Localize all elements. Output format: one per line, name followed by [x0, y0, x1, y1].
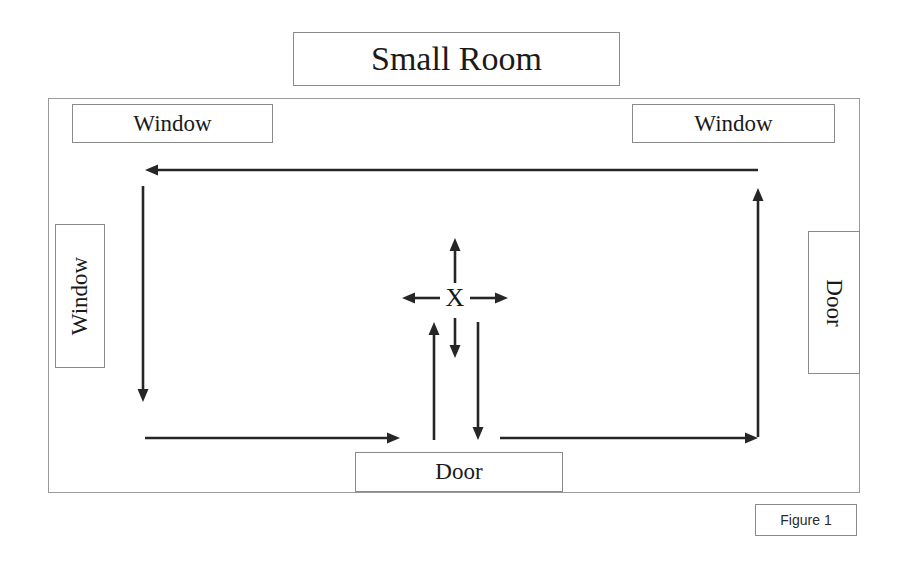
- arrow-head-lower-center-up: [429, 322, 440, 335]
- window-top-right-box: Window: [632, 104, 835, 143]
- door-right-label: Door: [821, 279, 847, 326]
- door-right-box: Door: [808, 231, 860, 374]
- window-top-right-label: Window: [694, 111, 772, 137]
- figure-title-box: Small Room: [293, 32, 620, 86]
- figure-caption-box: Figure 1: [755, 504, 857, 536]
- window-left-label: Window: [67, 257, 93, 335]
- arrow-head-center-up: [450, 238, 461, 251]
- figure-caption-label: Figure 1: [780, 512, 831, 528]
- arrow-head-center-left: [402, 293, 415, 304]
- door-bottom-box: Door: [355, 452, 563, 492]
- figure-title: Small Room: [371, 40, 542, 78]
- arrow-head-bottom-left: [387, 433, 400, 444]
- window-left-box: Window: [55, 224, 105, 368]
- figure-canvas: Small Room Window Window Window Door Doo…: [0, 0, 905, 571]
- arrow-head-perimeter-top: [145, 165, 158, 176]
- arrow-head-lower-center-down: [473, 427, 484, 440]
- arrow-head-perimeter-right: [753, 188, 764, 201]
- window-top-left-label: Window: [133, 111, 211, 137]
- arrow-head-center-down: [450, 345, 461, 358]
- door-bottom-label: Door: [435, 459, 482, 485]
- arrow-head-perimeter-left: [138, 389, 149, 402]
- arrow-head-bottom-right: [745, 433, 758, 444]
- arrow-head-center-right: [495, 293, 508, 304]
- center-marker-label: X: [446, 283, 465, 313]
- center-position-marker: X: [440, 283, 470, 313]
- window-top-left-box: Window: [72, 104, 273, 143]
